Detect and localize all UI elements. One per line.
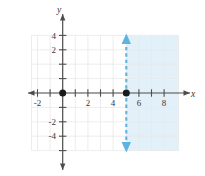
x-axis-label: x xyxy=(190,89,196,99)
x-tick-label-neg2: -2 xyxy=(34,98,42,108)
graph-svg: -2 2 4 6 8 4 2 -2 -4 x y xyxy=(0,0,205,176)
y-tick-label-neg2: -2 xyxy=(49,117,57,127)
x-tick-label-2: 2 xyxy=(86,98,91,108)
point-origin xyxy=(59,90,66,97)
coordinate-plane-figure: -2 2 4 6 8 4 2 -2 -4 x y xyxy=(0,0,205,176)
y-tick-label-4: 4 xyxy=(52,31,57,41)
x-tick-label-6: 6 xyxy=(137,98,142,108)
y-axis-label: y xyxy=(56,5,62,15)
point-boundary-5-0 xyxy=(123,90,130,97)
y-tick-label-2: 2 xyxy=(52,45,57,55)
x-tick-label-8: 8 xyxy=(162,98,167,108)
y-tick-label-neg4: -4 xyxy=(49,131,57,141)
x-tick-label-4: 4 xyxy=(111,98,116,108)
